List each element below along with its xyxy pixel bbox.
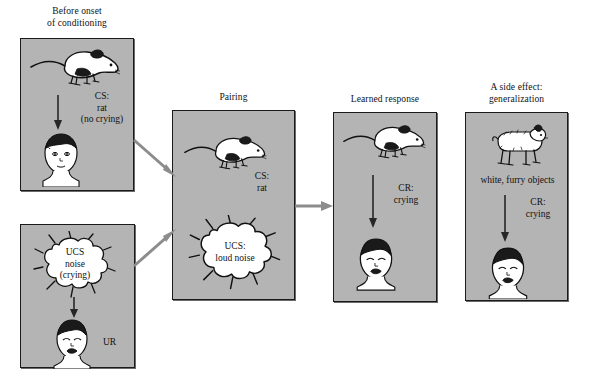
panel-caption-generalization: A side effect: generalization bbox=[465, 82, 568, 105]
label-cr-crying: CR: crying bbox=[382, 183, 430, 206]
arrow-right-icon bbox=[295, 198, 335, 214]
label-white-furry-objects: white, furry objects bbox=[467, 175, 568, 187]
panel-caption-pairing: Pairing bbox=[172, 92, 295, 104]
label-cs-rat-no-crying: CS: rat (no crying) bbox=[71, 91, 133, 126]
furry-dog-toy-icon bbox=[490, 123, 550, 169]
baby-calm-icon bbox=[37, 131, 85, 187]
panel-before-onset: CS: rat (no crying) bbox=[20, 38, 134, 191]
panel-ucs-noise: UCS noise (crying) UR bbox=[20, 224, 135, 368]
classical-conditioning-diagram: Before onset of conditioning CS: ra bbox=[0, 0, 592, 387]
arrow-down-icon bbox=[53, 95, 63, 135]
connector-pairing-to-learned-response bbox=[295, 198, 335, 218]
arrow-down-icon bbox=[368, 175, 378, 233]
arrow-down-icon bbox=[500, 195, 510, 247]
baby-crying-icon bbox=[352, 235, 400, 291]
panel-caption-learned-response: Learned response bbox=[333, 94, 437, 106]
label-cr-crying-generalization: CR: crying bbox=[514, 197, 562, 220]
panel-generalization: white, furry objects CR: crying bbox=[465, 112, 568, 301]
panel-pairing: CS: rat UCS: loud noise bbox=[172, 110, 295, 300]
baby-crying-icon bbox=[484, 245, 532, 299]
rat-icon bbox=[342, 123, 430, 167]
panel-caption-before-onset: Before onset of conditioning bbox=[20, 6, 134, 29]
label-ucs-loud-noise: UCS: loud noise bbox=[195, 241, 275, 264]
baby-crying-icon bbox=[49, 317, 95, 369]
rat-icon bbox=[29, 47, 125, 95]
label-ucs-noise-crying: UCS noise (crying) bbox=[39, 247, 111, 282]
label-ur: UR bbox=[103, 337, 129, 349]
panel-learned-response: CR: crying bbox=[333, 112, 437, 302]
label-cs-rat: CS: rat bbox=[239, 171, 285, 194]
